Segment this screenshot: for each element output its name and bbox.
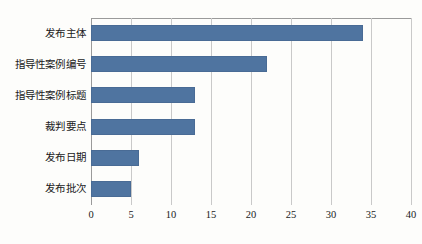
x-axis-tick-labels: 0510152025303540 (91, 208, 411, 226)
gridline-40 (411, 18, 412, 205)
bar-5[interactable] (91, 181, 131, 197)
category-axis-labels: 发布主体指导性案例编号指导性案例标题裁判要点发布日期发布批次 (0, 18, 86, 205)
x-tick-label-30: 30 (326, 208, 337, 222)
bar-row (91, 174, 411, 205)
x-tick-label-35: 35 (366, 208, 377, 222)
x-tick-label-20: 20 (246, 208, 257, 222)
category-label-2: 指导性案例标题 (0, 90, 86, 102)
plot-area (91, 18, 411, 205)
bar-2[interactable] (91, 87, 195, 103)
category-label-1: 指导性案例编号 (0, 59, 86, 71)
bar-3[interactable] (91, 119, 195, 135)
x-tick-label-10: 10 (166, 208, 177, 222)
x-tick-label-5: 5 (128, 208, 133, 222)
bar-chart: 发布主体指导性案例编号指导性案例标题裁判要点发布日期发布批次 051015202… (0, 0, 422, 244)
bar-row (91, 80, 411, 111)
x-tick-label-40: 40 (406, 208, 417, 222)
category-label-0: 发布主体 (0, 28, 86, 40)
x-tick-label-15: 15 (206, 208, 217, 222)
bar-1[interactable] (91, 56, 267, 72)
x-tick-label-0: 0 (88, 208, 93, 222)
category-label-4: 发布日期 (0, 152, 86, 164)
category-label-5: 发布批次 (0, 183, 86, 195)
x-tick-label-25: 25 (286, 208, 297, 222)
bar-row (91, 49, 411, 80)
bar-4[interactable] (91, 150, 139, 166)
category-label-3: 裁判要点 (0, 121, 86, 133)
bar-row (91, 143, 411, 174)
bar-row (91, 18, 411, 49)
bar-0[interactable] (91, 25, 363, 41)
bars-layer (91, 18, 411, 205)
bar-row (91, 112, 411, 143)
